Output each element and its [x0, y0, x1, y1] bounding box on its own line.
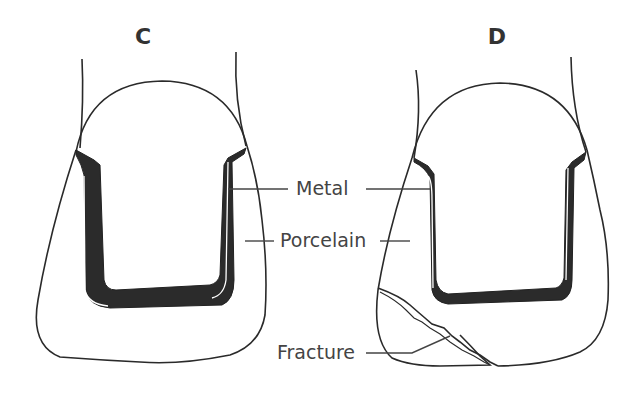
tooth-wall-right	[571, 57, 586, 152]
panel-label-d: D	[488, 24, 506, 49]
metal-porcelain-interface	[428, 168, 568, 288]
porcelain-outline-remaining	[498, 150, 608, 366]
metal-coping	[414, 152, 586, 304]
metal-coping	[76, 148, 246, 308]
fracture-leader	[366, 336, 450, 353]
panel-c: C	[36, 24, 288, 363]
tooth-crown-arch	[412, 83, 587, 158]
tooth-crown-arch	[76, 81, 247, 152]
metal-label: Metal	[296, 177, 348, 199]
panel-d: D	[366, 24, 608, 366]
tooth-wall-right	[236, 52, 246, 146]
panel-label-c: C	[135, 24, 151, 49]
fracture-label: Fracture	[277, 341, 355, 363]
porcelain-label: Porcelain	[280, 229, 366, 251]
crown-diagram: C D Metal Porcelain	[0, 0, 643, 397]
